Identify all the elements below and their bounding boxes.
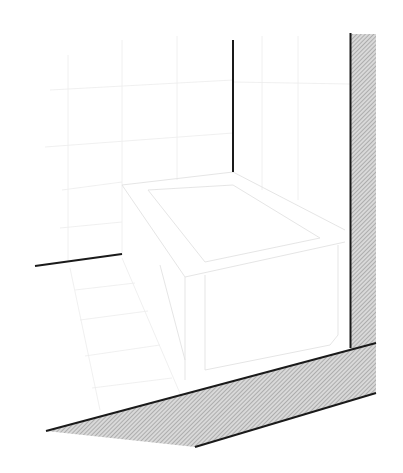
bathroom-section-drawing: [0, 0, 403, 473]
left-floor-edge-line: [35, 254, 122, 266]
bathtub: [122, 172, 345, 380]
right-wall-section: [350, 33, 376, 394]
floor-slab-section: [46, 343, 376, 447]
floor-tiles: [70, 258, 185, 410]
